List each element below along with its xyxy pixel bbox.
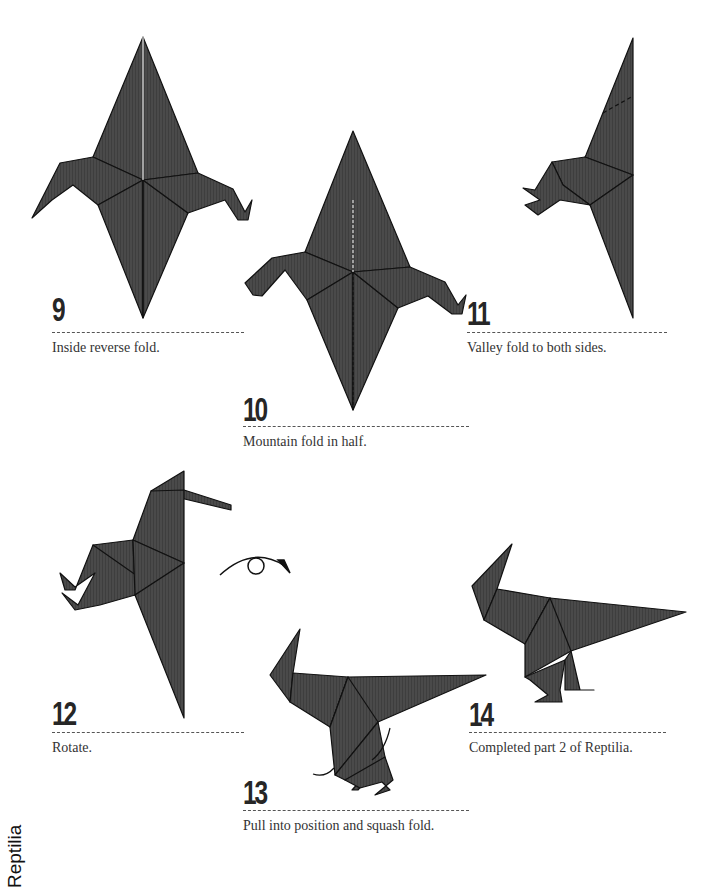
step-13-diagram xyxy=(270,629,486,795)
step-12-diagram xyxy=(60,471,231,718)
step-number: 14 xyxy=(469,697,492,731)
step-caption: Inside reverse fold. xyxy=(52,340,160,356)
step-caption: Rotate. xyxy=(52,740,92,756)
step-number: 10 xyxy=(243,392,266,426)
step-caption: Mountain fold in half. xyxy=(243,434,367,450)
step-number: 12 xyxy=(52,696,75,730)
step-caption: Pull into position and squash fold. xyxy=(243,818,434,834)
step-11-diagram xyxy=(523,38,633,318)
step-14-diagram xyxy=(472,544,686,702)
step-divider xyxy=(243,810,469,811)
step-divider xyxy=(467,332,667,333)
step-9-diagram xyxy=(32,37,252,318)
step-caption: Valley fold to both sides. xyxy=(467,340,607,356)
step-number: 9 xyxy=(52,292,63,326)
step-10-diagram xyxy=(245,131,466,410)
step-divider xyxy=(469,732,666,733)
step-divider xyxy=(243,426,469,427)
section-label: Reptilia xyxy=(4,825,26,888)
step-divider xyxy=(52,332,244,333)
step-caption: Completed part 2 of Reptilia. xyxy=(469,740,633,756)
step-number: 13 xyxy=(243,775,266,809)
step-number: 11 xyxy=(467,296,489,330)
rotate-arrow-icon xyxy=(220,557,290,575)
step-divider xyxy=(52,732,244,733)
